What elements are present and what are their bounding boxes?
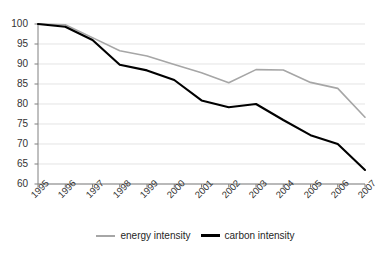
y-tick-label: 80 [2, 99, 28, 109]
chart-container: 1009590858075706560 19951996199719981999… [0, 0, 391, 256]
y-tick-label: 70 [2, 139, 28, 149]
legend-line-icon-energy [96, 235, 115, 237]
series-line-carbon-intensity [38, 24, 365, 170]
y-tick-label: 60 [2, 179, 28, 189]
chart-legend: energy intensity carbon intensity [0, 230, 391, 241]
legend-line-icon-carbon [201, 234, 220, 237]
y-tick-label: 100 [2, 19, 28, 29]
y-tick-label: 90 [2, 59, 28, 69]
legend-item-carbon-intensity: carbon intensity [201, 230, 295, 241]
chart-plot-area [0, 0, 391, 256]
legend-item-energy-intensity: energy intensity [96, 230, 190, 241]
y-tick-label: 85 [2, 79, 28, 89]
series-lines [38, 24, 365, 170]
y-tick-label: 65 [2, 159, 28, 169]
legend-label-carbon: carbon intensity [225, 230, 295, 241]
y-tick-label: 95 [2, 39, 28, 49]
y-tick-label: 75 [2, 119, 28, 129]
legend-label-energy: energy intensity [120, 230, 190, 241]
y-axis-ticks [35, 24, 39, 184]
gridlines [38, 24, 365, 184]
